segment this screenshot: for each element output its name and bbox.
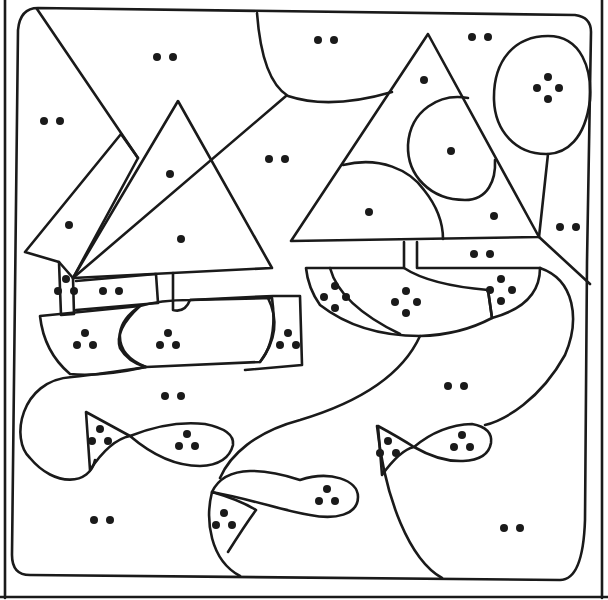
dot-icon [490, 212, 498, 220]
dot-icon [544, 95, 552, 103]
dot-cluster-right-sail-corner [490, 212, 498, 220]
bottom-fish-tail [209, 492, 256, 576]
dot-icon [164, 329, 172, 337]
bottom-fish [212, 471, 358, 517]
dot-icon [175, 442, 183, 450]
inner-border [12, 8, 591, 580]
dot-icon [500, 524, 508, 532]
dot-icon [292, 341, 300, 349]
dot-icon [444, 382, 452, 390]
dot-icon [153, 53, 161, 61]
dot-icon [556, 223, 564, 231]
dot-icon [90, 516, 98, 524]
dot-icon [497, 297, 505, 305]
right-sail-dome [343, 162, 443, 239]
dot-icon [376, 449, 384, 457]
dot-icon [320, 293, 328, 301]
dot-icon [470, 250, 478, 258]
dot-cluster-water-bottom-left [90, 516, 114, 524]
dot-icon [62, 275, 70, 283]
dot-icon [572, 223, 580, 231]
dot-cluster-left-hull-middle [156, 329, 180, 349]
dot-cluster-left-sail-back [65, 221, 73, 229]
dot-icon [331, 497, 339, 505]
dot-cluster-bottom-fish-tail [212, 509, 236, 529]
dot-cluster-bottom-fish-body [315, 485, 339, 505]
dot-cluster-sky-top-right [468, 33, 492, 41]
dot-icon [384, 437, 392, 445]
dot-cluster-water-bottom-right [500, 524, 524, 532]
dot-icon [281, 155, 289, 163]
water-left-curve [20, 367, 146, 480]
dot-icon [156, 341, 164, 349]
tree [494, 36, 590, 237]
sky-line-right [539, 237, 590, 284]
left-back-sail [25, 134, 138, 278]
water-center-curve [220, 336, 420, 478]
dot-icon [81, 329, 89, 337]
dot-cluster-water-center-left [161, 392, 185, 400]
dot-icon [172, 341, 180, 349]
dot-icon [315, 497, 323, 505]
dot-icon [65, 221, 73, 229]
right-boat-body [306, 242, 540, 336]
dot-cluster-sky-top-left [153, 53, 177, 61]
dot-icon [99, 287, 107, 295]
dot-icon [96, 425, 104, 433]
dot-icon [177, 235, 185, 243]
dot-icon [497, 275, 505, 283]
dot-icon [468, 33, 476, 41]
dot-cluster-sky-left [40, 117, 64, 125]
dot-icon [391, 298, 399, 306]
right-hull-stripe [330, 268, 400, 334]
dot-icon [106, 516, 114, 524]
dot-icon [458, 431, 466, 439]
dot-cluster-right-edge [556, 223, 580, 231]
dot-icon [331, 304, 339, 312]
left-hull-middle [120, 298, 274, 367]
dot-icon [191, 442, 199, 450]
dot-icon [73, 341, 81, 349]
dot-icon [183, 430, 191, 438]
dot-icon [508, 286, 516, 294]
water-right-curve [485, 268, 573, 425]
water [20, 268, 573, 578]
dot-cluster-right-sail-blob [447, 147, 455, 155]
dot-cluster-left-fish-body [175, 430, 199, 450]
dot-icon [420, 76, 428, 84]
dot-icon [88, 437, 96, 445]
dot-icon [276, 341, 284, 349]
dot-icon [402, 287, 410, 295]
dot-icon [323, 485, 331, 493]
dot-icon [484, 33, 492, 41]
dot-icon [177, 392, 185, 400]
dot-icon [166, 170, 174, 178]
dot-cluster-left-hull-front [73, 329, 97, 349]
dot-icon [265, 155, 273, 163]
dot-icon [212, 521, 220, 529]
dot-icon [284, 329, 292, 337]
dot-icon [56, 117, 64, 125]
dot-icon [115, 287, 123, 295]
dot-icon [486, 250, 494, 258]
dot-icon [392, 449, 400, 457]
dot-icon [228, 521, 236, 529]
dot-cluster-left-sail-front-lower [177, 235, 185, 243]
left-boat-sails [25, 101, 272, 278]
dot-cluster-right-sail-dome [365, 208, 373, 216]
dot-icon [54, 287, 62, 295]
left-hull-front [40, 306, 146, 375]
dot-icon [402, 309, 410, 317]
fish [86, 412, 491, 576]
dot-icon [413, 298, 421, 306]
dot-cluster-water-right [444, 382, 468, 390]
dot-cluster-right-fish-body [450, 431, 474, 451]
dot-icon [89, 341, 97, 349]
dot-cluster-right-sail-top [420, 76, 428, 84]
dot-cluster-left-deck [99, 287, 123, 295]
dot-icon [533, 84, 541, 92]
dot-icon [342, 293, 350, 301]
top-cloud [257, 13, 392, 102]
sky-line-diagonal [73, 96, 286, 278]
dot-icon [70, 287, 78, 295]
